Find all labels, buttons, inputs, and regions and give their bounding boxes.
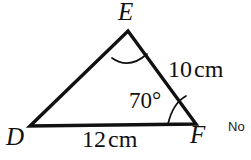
angle-arc-at-E: [112, 54, 147, 63]
side-length-df: 12cm: [82, 127, 137, 151]
vertex-label-f: F: [190, 122, 205, 147]
angle-measure-f: 70°: [129, 89, 161, 112]
vertex-label-d: D: [6, 124, 24, 149]
margin-note-text: No: [228, 120, 245, 133]
side-length-ef-value: 10: [168, 56, 192, 82]
side-length-ef-unit: cm: [194, 56, 223, 82]
side-length-df-value: 12: [82, 126, 106, 152]
vertex-label-e: E: [118, 0, 133, 24]
side-length-df-unit: cm: [108, 126, 137, 152]
diagram-canvas: E D F 10cm 12cm 70° No: [0, 0, 251, 160]
side-length-ef: 10cm: [168, 57, 223, 81]
